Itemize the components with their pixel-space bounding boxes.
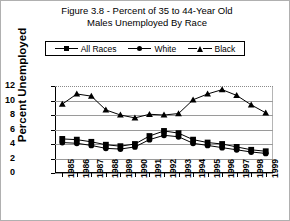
x-tick-label: 1988 (110, 159, 120, 178)
chart-legend: All Races White Black (45, 41, 245, 56)
x-tick-label: 1995 (212, 159, 222, 178)
y-tick-label: 8 (0, 109, 15, 119)
triangle-marker (233, 92, 240, 98)
triangle-marker (73, 91, 80, 97)
legend-line (55, 48, 64, 50)
y-tick-mark (51, 173, 55, 174)
x-tick-label: 1986 (81, 159, 91, 178)
x-tick-label: 1999 (270, 159, 280, 178)
x-tick-mark (120, 173, 121, 177)
y-tick-label: 0 (0, 167, 15, 177)
triangle-marker (219, 86, 226, 92)
x-tick-label: 1990 (139, 159, 149, 178)
x-tick-label: 1992 (168, 159, 178, 178)
x-tick-mark (106, 173, 107, 177)
circle-marker (176, 134, 182, 140)
legend-line (188, 48, 197, 50)
triangle-marker (262, 109, 269, 115)
triangle-marker (248, 101, 255, 107)
circle-marker (59, 140, 65, 146)
x-tick-mark (222, 173, 223, 177)
legend-label: All Races (81, 44, 117, 54)
y-axis-label: Percent Unemployed (16, 25, 28, 145)
x-tick-label: 1989 (124, 159, 134, 178)
x-tick-mark (91, 173, 92, 177)
legend-line (203, 48, 212, 50)
x-tick-mark (77, 173, 78, 177)
circle-marker (103, 145, 109, 151)
legend-item-black: Black (188, 44, 236, 54)
x-tick-mark (266, 173, 267, 177)
y-tick-label: 12 (0, 80, 15, 90)
y-tick-mark (51, 159, 55, 160)
chart-title: Figure 3.8 - Percent of 35 to 44-Year Ol… (29, 5, 265, 29)
circle-marker (219, 145, 225, 151)
circle-marker (234, 147, 240, 153)
triangle-marker (59, 101, 66, 107)
circle-marker (74, 140, 80, 146)
x-tick-mark (164, 173, 165, 177)
x-tick-mark (208, 173, 209, 177)
y-tick-mark (51, 101, 55, 102)
circle-marker (147, 137, 153, 143)
legend-line (69, 48, 78, 50)
chart-figure: Figure 3.8 - Percent of 35 to 44-Year Ol… (0, 0, 290, 221)
legend-label: White (154, 44, 176, 54)
y-tick-mark (51, 130, 55, 131)
y-tick-label: 6 (0, 124, 15, 134)
y-tick-mark (51, 115, 55, 116)
x-tick-label: 1994 (197, 159, 207, 178)
x-tick-label: 1987 (95, 159, 105, 178)
x-tick-label: 1985 (66, 159, 76, 178)
chart-title-line-2: Males Unemployed By Race (29, 17, 265, 29)
x-tick-label: 1996 (226, 159, 236, 178)
x-tick-label: 1993 (183, 159, 193, 178)
circle-marker (88, 143, 94, 149)
legend-line (128, 48, 137, 50)
x-tick-label: 1998 (255, 159, 265, 178)
x-tick-mark (179, 173, 180, 177)
y-tick-label: 10 (0, 95, 15, 105)
x-tick-mark (149, 173, 150, 177)
triangle-marker (146, 111, 153, 117)
circle-marker (161, 132, 167, 138)
y-tick-label: 2 (0, 153, 15, 163)
circle-marker (205, 143, 211, 149)
x-tick-mark (62, 173, 63, 177)
chart-title-line-1: Figure 3.8 - Percent of 35 to 44-Year Ol… (29, 5, 265, 17)
y-tick-label: 4 (0, 138, 15, 148)
y-tick-mark (51, 86, 55, 87)
legend-item-all-races: All Races (55, 44, 117, 54)
legend-line (142, 48, 151, 50)
circle-marker (190, 140, 196, 146)
circle-marker (132, 144, 138, 150)
x-tick-mark (135, 173, 136, 177)
y-tick-mark (51, 144, 55, 145)
x-tick-mark (193, 173, 194, 177)
circle-marker (118, 146, 124, 152)
x-tick-mark (237, 173, 238, 177)
triangle-marker (190, 96, 197, 102)
legend-item-white: White (128, 44, 176, 54)
x-tick-mark (251, 173, 252, 177)
x-tick-label: 1991 (153, 159, 163, 178)
circle-marker (248, 149, 254, 155)
circle-marker (263, 151, 269, 157)
x-tick-label: 1997 (241, 159, 251, 178)
legend-label: Black (215, 44, 236, 54)
